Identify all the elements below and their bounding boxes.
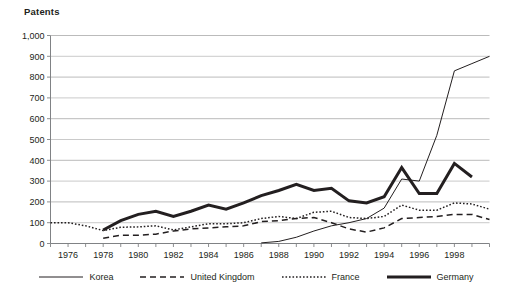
legend-item-germany[interactable]: Germany: [386, 272, 474, 282]
y-axis-tick-label: 1,000: [22, 31, 45, 41]
legend-label: United Kingdom: [190, 272, 254, 282]
x-axis-tick-label: 1994: [374, 250, 394, 260]
y-axis-tick-label: 900: [29, 52, 44, 62]
x-axis-tick-label: 1980: [128, 250, 148, 260]
y-axis-tick-label: 200: [29, 197, 44, 207]
legend-item-united-kingdom[interactable]: United Kingdom: [139, 272, 254, 282]
legend-item-korea[interactable]: Korea: [38, 272, 113, 282]
legend-swatch-dashed: [139, 272, 185, 282]
x-axis-tick-label: 1996: [409, 250, 429, 260]
chart-figure: Patents 01002003004005006007008009001,00…: [0, 0, 512, 293]
y-axis-tick-label: 300: [29, 176, 44, 186]
x-axis-tick-label: 1976: [58, 250, 78, 260]
x-axis-tick-label: 1982: [163, 250, 183, 260]
y-axis-tick-label: 800: [29, 72, 44, 82]
legend-label: France: [332, 272, 360, 282]
series-line-korea: [261, 56, 489, 243]
y-axis-tick-label: 100: [29, 218, 44, 228]
x-axis-tick-label: 1992: [339, 250, 359, 260]
x-axis-tick-label: 1986: [234, 250, 254, 260]
y-axis-tick-label: 600: [29, 114, 44, 124]
chart-legend: KoreaUnited KingdomFranceGermany: [0, 266, 512, 288]
legend-swatch-solid-thin: [38, 272, 84, 282]
y-axis-tick-label: 400: [29, 156, 44, 166]
legend-label: Germany: [437, 272, 474, 282]
legend-label: Korea: [89, 272, 113, 282]
legend-item-france[interactable]: France: [281, 272, 360, 282]
x-axis-tick-label: 1990: [304, 250, 324, 260]
y-axis-tick-label: 700: [29, 93, 44, 103]
y-axis-tick-label: 500: [29, 135, 44, 145]
legend-swatch-dotted: [281, 272, 327, 282]
line-chart-plot: 01002003004005006007008009001,0001976197…: [0, 0, 512, 293]
x-axis-tick-label: 1998: [444, 250, 464, 260]
x-axis-tick-label: 1978: [93, 250, 113, 260]
legend-swatch-solid-thick: [386, 272, 432, 282]
series-line-france: [51, 203, 490, 231]
x-axis-tick-label: 1984: [199, 250, 219, 260]
x-axis-tick-label: 1988: [269, 250, 289, 260]
y-axis-tick-label: 0: [39, 239, 44, 249]
